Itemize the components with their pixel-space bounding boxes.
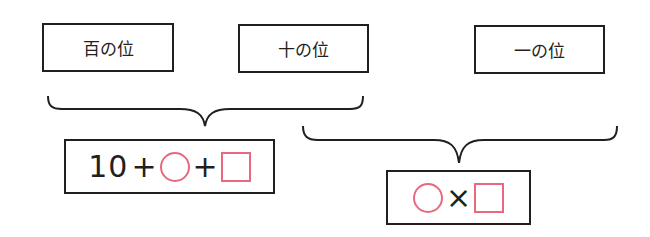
circle-shape-icon xyxy=(160,152,190,182)
left-curly-brace xyxy=(48,96,363,126)
square-shape-icon xyxy=(221,152,251,182)
circle-shape-icon xyxy=(413,183,443,213)
square-shape-icon xyxy=(474,183,504,213)
right-curly-brace xyxy=(303,126,617,163)
times-sign: × xyxy=(446,180,471,215)
ten-number: 10 xyxy=(88,149,128,184)
plus-sign: + xyxy=(131,149,156,184)
curly-braces xyxy=(0,0,650,237)
plus-sign: + xyxy=(193,149,218,184)
product-expression-box: × xyxy=(386,170,531,225)
sum-expression-box: 10 + + xyxy=(64,139,275,194)
